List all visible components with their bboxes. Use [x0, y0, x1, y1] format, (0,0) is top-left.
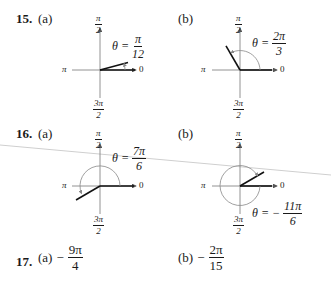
axis-label-left-16a: π: [62, 180, 67, 190]
axis-label-left-15a: π: [62, 64, 67, 74]
axis-label-right-16a: 0: [139, 180, 144, 190]
part-label-17a: (a): [38, 250, 52, 266]
axis-label-bottom-16b: 3π2: [233, 215, 244, 236]
axis-label-right-16b: 0: [280, 180, 285, 190]
problem-number-17: 17.: [16, 254, 32, 270]
part-label-16b: (b): [178, 126, 193, 142]
problem-number-16: 16.: [16, 126, 32, 142]
problem-number-15: 15.: [16, 11, 32, 27]
answer-17a: (a) − 9π4: [38, 243, 83, 272]
theta-label-15b: θ = 2π3: [252, 30, 286, 57]
part-label-16a: (a): [38, 126, 52, 142]
axis-label-right-15a: 0: [139, 64, 144, 74]
scan-artifact-line: [0, 145, 331, 175]
part-label-15b: (b): [178, 11, 193, 27]
theta-label-15a: θ = π12: [112, 33, 144, 60]
theta-label-16b: θ = − 11π6: [252, 200, 302, 227]
axis-label-top-16b: π2: [235, 129, 242, 150]
part-label-15a: (a): [38, 11, 52, 27]
axis-label-left-15b: π: [201, 64, 206, 74]
part-label-17b: (b): [178, 250, 193, 266]
theta-label-16a: θ = 7π6: [112, 145, 146, 172]
axis-label-bottom-16a: 3π2: [93, 215, 104, 236]
answer-17b: (b) − 2π15: [178, 243, 224, 272]
axis-label-top-16a: π2: [95, 129, 102, 150]
axis-label-top-15b: π2: [235, 14, 242, 35]
axis-label-bottom-15b: 3π2: [233, 99, 244, 120]
axis-label-left-16b: π: [201, 180, 206, 190]
axis-label-bottom-15a: 3π2: [93, 99, 104, 120]
axis-label-right-15b: 0: [280, 64, 285, 74]
axis-label-top-15a: π2: [95, 14, 102, 35]
